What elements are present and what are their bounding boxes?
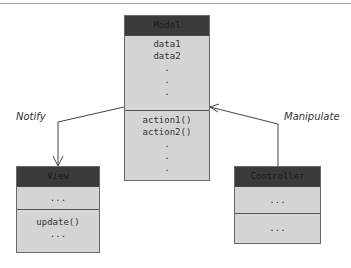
notify-label: Notify — [16, 111, 46, 122]
model-class[interactable]: Model data1 data2 . . . action1() action… — [124, 15, 210, 181]
attr-dot: . — [125, 74, 209, 86]
controller-methods: ... — [235, 213, 320, 244]
model-title: Model — [125, 16, 209, 36]
view-attributes: ... — [17, 187, 99, 209]
attr-data2: data2 — [125, 50, 209, 62]
model-attributes: data1 data2 . . . — [125, 36, 209, 110]
method-dot: . — [125, 150, 209, 162]
attr-dot: . — [125, 62, 209, 74]
controller-title: Controller — [235, 167, 320, 187]
method-dot: . — [125, 162, 209, 174]
method-ellipsis: ... — [17, 228, 99, 240]
view-title: View — [17, 167, 99, 187]
manipulate-label: Manipulate — [284, 111, 340, 122]
method-update: update() — [17, 216, 99, 228]
method-action2: action2() — [125, 126, 209, 138]
view-class[interactable]: View ... update() ... — [16, 166, 100, 253]
method-action1: action1() — [125, 114, 209, 126]
attr-dot: . — [125, 86, 209, 98]
view-methods: update() ... — [17, 209, 99, 240]
controller-attributes: ... — [235, 187, 320, 213]
method-dot: . — [125, 138, 209, 150]
attr-data1: data1 — [125, 38, 209, 50]
model-methods: action1() action2() . . . — [125, 110, 209, 174]
controller-class[interactable]: Controller ... ... — [234, 166, 321, 244]
